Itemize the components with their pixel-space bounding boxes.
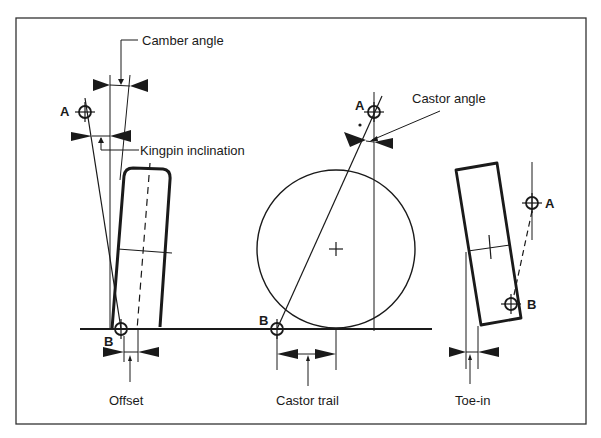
camber-angle-label: Camber angle bbox=[142, 33, 224, 48]
toe-in-marker bbox=[449, 347, 499, 357]
toe-in-label: Toe-in bbox=[455, 393, 490, 408]
castor-trail-marker bbox=[277, 349, 336, 359]
point-a-label: A bbox=[60, 104, 70, 119]
point-a-label: A bbox=[545, 196, 555, 211]
top-view-panel: A B Toe-in bbox=[449, 162, 555, 408]
point-b-label: B bbox=[104, 334, 113, 349]
tyre-front-view bbox=[112, 168, 170, 329]
kingpin-inclination-label: Kingpin inclination bbox=[140, 143, 245, 158]
diagram-frame bbox=[16, 18, 586, 424]
point-a-label: A bbox=[355, 98, 365, 113]
side-view-panel: Castor angle A B Castor trail bbox=[215, 91, 486, 408]
castor-trail-label: Castor trail bbox=[276, 393, 339, 408]
point-b-label: B bbox=[259, 313, 268, 328]
point-a-target-icon bbox=[522, 193, 542, 213]
castor-angle-label: Castor angle bbox=[412, 91, 486, 106]
offset-label: Offset bbox=[109, 393, 144, 408]
front-view-panel: Camber angle Kingpin inclination A B Off… bbox=[60, 33, 245, 408]
point-a-target-icon bbox=[364, 102, 384, 122]
castor-axis bbox=[277, 96, 382, 329]
kingpin-axis bbox=[85, 98, 121, 329]
point-a-target-icon bbox=[75, 102, 95, 122]
wheel-alignment-diagram: Camber angle Kingpin inclination A B Off… bbox=[0, 0, 601, 438]
point-b-label: B bbox=[527, 297, 536, 312]
